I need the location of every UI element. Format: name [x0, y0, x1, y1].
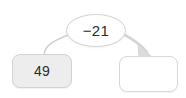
operation-label: −21	[83, 23, 109, 38]
operation-oval: −21	[66, 14, 126, 47]
result-answer-box[interactable]	[119, 56, 178, 92]
start-to-operation-curve	[44, 35, 68, 55]
start-value-label: 49	[34, 64, 50, 78]
start-value-box: 49	[12, 54, 72, 88]
function-machine-diagram: 49 −21	[0, 0, 186, 98]
